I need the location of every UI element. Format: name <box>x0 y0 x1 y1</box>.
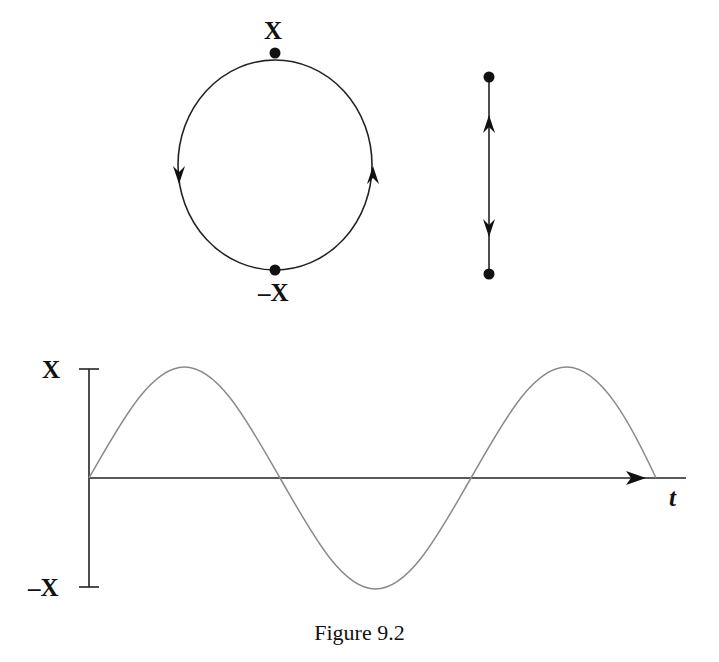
top-point-icon <box>270 48 281 59</box>
phase-circle: X –X <box>173 17 379 306</box>
bottom-point-icon <box>270 265 281 276</box>
y-top-label: X <box>42 356 60 383</box>
phase-segment <box>483 72 495 280</box>
arrow-up-icon <box>367 166 379 184</box>
x-axis-label: t <box>669 484 677 511</box>
segment-top-point-icon <box>484 72 495 83</box>
arrow-down-icon <box>173 166 185 184</box>
figure-canvas: X –X X –X t <box>0 0 719 662</box>
segment-bottom-point-icon <box>484 269 495 280</box>
waveform-plot: X –X t <box>27 356 686 601</box>
circle-top-label: X <box>264 17 282 44</box>
figure-caption: Figure 9.2 <box>0 620 719 646</box>
circle-bottom-label: –X <box>257 279 289 306</box>
y-bottom-label: –X <box>27 574 59 601</box>
